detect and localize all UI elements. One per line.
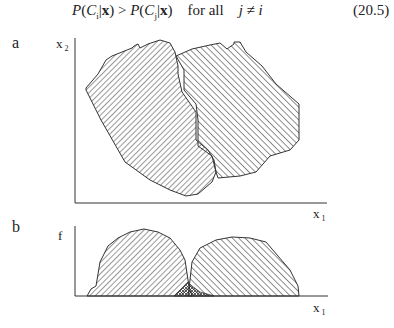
figure bbox=[0, 0, 394, 328]
density-class-j bbox=[188, 237, 299, 296]
density-class-i bbox=[87, 229, 192, 296]
